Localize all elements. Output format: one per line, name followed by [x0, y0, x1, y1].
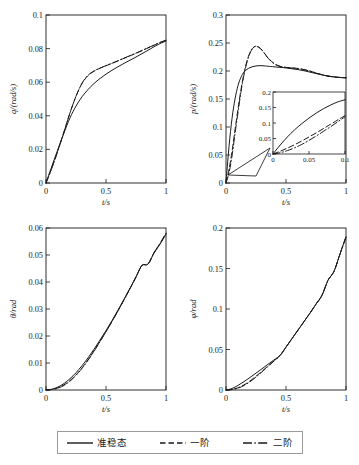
- theta-panel: 00.010.020.030.040.050.06 00.51 t/s θ/ra…: [0, 215, 180, 415]
- q-panel-svg: 00.020.040.060.080.1 00.51 t/s q/(rad/s): [0, 0, 180, 215]
- svg-text:1: 1: [164, 187, 168, 196]
- q-panel-xlabel: t/s: [102, 197, 111, 207]
- p-panel-svg: 00.050.10.150.20.250.3 00.51 00.050.10.1…: [180, 0, 359, 215]
- svg-text:0: 0: [219, 386, 223, 395]
- legend: 准稳态 一阶 二阶: [57, 431, 303, 454]
- p-panel-ylabel: p/(rad/s): [188, 84, 198, 115]
- q-panel-curves: [46, 40, 166, 183]
- svg-text:0.05: 0.05: [259, 135, 272, 143]
- q-panel-ylabel: q/(rad/s): [8, 84, 18, 114]
- svg-text:0.05: 0.05: [303, 156, 316, 164]
- theta-panel-ylabel: θ/rad: [8, 299, 18, 318]
- svg-text:1: 1: [344, 394, 348, 403]
- svg-text:0.02: 0.02: [28, 145, 43, 154]
- phi-panel-x-ticks: 00.51: [224, 386, 348, 403]
- theta-panel-curves: [46, 233, 166, 390]
- svg-text:0.03: 0.03: [28, 305, 43, 314]
- svg-text:1: 1: [344, 187, 348, 196]
- svg-text:0.04: 0.04: [28, 112, 43, 121]
- svg-text:0.2: 0.2: [262, 89, 271, 97]
- svg-text:0.05: 0.05: [208, 346, 223, 355]
- p-panel-inset: 00.050.10.150.2 00.050.1: [259, 89, 350, 165]
- phi-panel: 00.050.10.150.2 00.51 t/s φ/rad: [180, 215, 359, 415]
- legend-label-0: 准稳态: [97, 438, 127, 448]
- phi-panel-xlabel: t/s: [282, 404, 291, 414]
- svg-text:0.01: 0.01: [28, 359, 43, 368]
- p-panel: 00.050.10.150.20.250.3 00.51 00.050.10.1…: [180, 0, 359, 215]
- p-panel-y-ticks: 00.050.10.150.20.250.3: [208, 11, 230, 188]
- svg-text:0.04: 0.04: [28, 278, 43, 287]
- svg-text:0.5: 0.5: [101, 187, 111, 196]
- theta-panel-svg: 00.010.020.030.040.050.06 00.51 t/s θ/ra…: [0, 215, 180, 415]
- phi-panel-y-ticks: 00.050.10.150.2: [208, 224, 230, 395]
- theta-panel-y-ticks: 00.010.020.030.040.050.06: [28, 224, 50, 395]
- svg-text:0.05: 0.05: [28, 251, 43, 260]
- p-panel-xlabel: t/s: [282, 197, 291, 207]
- legend-label-2: 二阶: [273, 438, 293, 448]
- svg-text:0.2: 0.2: [213, 224, 223, 233]
- svg-text:0: 0: [224, 394, 228, 403]
- svg-text:0.06: 0.06: [28, 78, 43, 87]
- inset-pointer-icon: [228, 148, 270, 176]
- svg-text:0: 0: [271, 156, 275, 164]
- phi-panel-plot-area: 00.050.10.150.2 00.51: [208, 224, 348, 403]
- svg-text:0.3: 0.3: [213, 11, 223, 20]
- legend-swatch-1: [160, 439, 186, 447]
- svg-text:0.15: 0.15: [259, 104, 272, 112]
- svg-text:0.5: 0.5: [281, 187, 291, 196]
- svg-text:0: 0: [44, 187, 48, 196]
- legend-item-1: 一阶: [160, 438, 210, 448]
- svg-text:0.1: 0.1: [341, 156, 350, 164]
- q-panel: 00.020.040.060.080.1 00.51 t/s q/(rad/s): [0, 0, 180, 215]
- legend-swatch-0: [67, 439, 93, 447]
- svg-text:0.08: 0.08: [28, 45, 43, 54]
- q-panel-plot-area: 00.020.040.060.080.1 00.51: [28, 11, 168, 196]
- svg-text:0.05: 0.05: [208, 151, 223, 160]
- phi-panel-curves: [226, 237, 346, 390]
- p-panel-plot-area: 00.050.10.150.20.250.3 00.51 00.050.10.1…: [208, 11, 349, 196]
- svg-text:0.25: 0.25: [208, 39, 223, 48]
- svg-text:0.1: 0.1: [213, 123, 223, 132]
- svg-text:0.06: 0.06: [28, 224, 43, 233]
- p-panel-x-ticks: 00.51: [224, 179, 348, 196]
- phi-panel-ylabel: φ/rad: [188, 299, 198, 319]
- svg-text:0: 0: [44, 394, 48, 403]
- svg-text:0.1: 0.1: [33, 11, 43, 20]
- svg-text:0.15: 0.15: [208, 265, 223, 274]
- legend-swatch-2: [243, 439, 269, 447]
- figure-root: 00.020.040.060.080.1 00.51 t/s q/(rad/s)…: [0, 0, 359, 465]
- legend-label-1: 一阶: [190, 438, 210, 448]
- svg-text:0: 0: [224, 187, 228, 196]
- svg-text:0.5: 0.5: [281, 394, 291, 403]
- q-panel-y-ticks: 00.020.040.060.080.1: [28, 11, 50, 188]
- svg-text:1: 1: [164, 394, 168, 403]
- legend-item-0: 准稳态: [67, 438, 127, 448]
- legend-item-2: 二阶: [243, 438, 293, 448]
- svg-text:0: 0: [39, 179, 43, 188]
- theta-panel-plot-area: 00.010.020.030.040.050.06 00.51: [28, 224, 168, 403]
- theta-panel-x-ticks: 00.51: [44, 386, 168, 403]
- svg-text:0.2: 0.2: [213, 67, 223, 76]
- svg-text:0.02: 0.02: [28, 332, 43, 341]
- theta-panel-xlabel: t/s: [102, 404, 111, 414]
- svg-text:0: 0: [39, 386, 43, 395]
- svg-text:0.1: 0.1: [262, 120, 271, 128]
- q-panel-x-ticks: 00.51: [44, 179, 168, 196]
- svg-text:0.15: 0.15: [208, 95, 223, 104]
- svg-text:0.5: 0.5: [101, 394, 111, 403]
- phi-panel-svg: 00.050.10.150.2 00.51 t/s φ/rad: [180, 215, 359, 415]
- svg-text:0.1: 0.1: [213, 305, 223, 314]
- svg-text:0: 0: [219, 179, 223, 188]
